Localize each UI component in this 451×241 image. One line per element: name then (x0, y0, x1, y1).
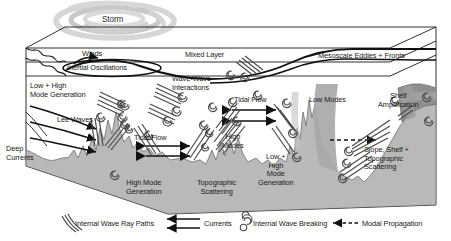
legend-currents-icon (167, 219, 200, 228)
deep-currents-arrows (30, 106, 96, 152)
inertial-oscillation-ellipse (63, 57, 161, 76)
storm-spiral-icon (56, 3, 174, 38)
low-modes-beam-secondary (291, 92, 302, 150)
legend-symbols (62, 212, 358, 232)
legend-ray-lines-icon (62, 214, 82, 232)
ocean-internal-wave-diagram: Storm Winds Inertial Oscillations Mixed … (0, 0, 451, 241)
pycnocline-interface-curve (66, 49, 436, 79)
diagram-canvas (0, 0, 451, 241)
legend-breaking-icon (240, 212, 252, 231)
